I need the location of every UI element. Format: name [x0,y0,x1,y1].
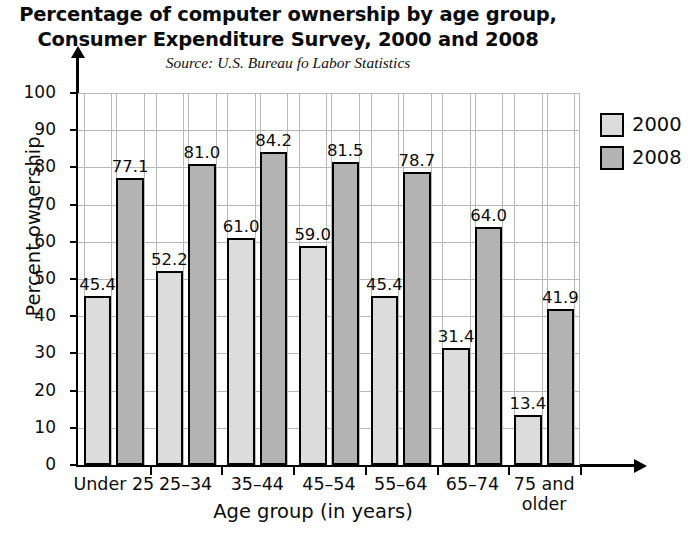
chart-source-note: Source: U.S. Bureau fo Labor Statistics [0,53,576,72]
bar-2000-35–44[interactable] [227,238,255,465]
bar-value-label: 78.7 [391,153,443,170]
gridline-horizontal [78,93,580,94]
x-axis-category-label-line: older [484,494,604,514]
bar-value-label: 84.2 [248,133,300,150]
y-axis-tick-label: 30 [14,344,56,361]
chart-title-block: Percentage of computer ownership by age … [0,2,576,72]
legend-swatch-icon-2000 [600,113,624,137]
y-axis-tick-label: 100 [14,84,56,101]
bar-2008-55–64[interactable] [403,172,431,465]
gridline-vertical [579,93,580,465]
bar-chart: Percentage of computer ownership by age … [0,0,699,545]
gridline-horizontal [78,353,580,354]
y-axis-tick-label: 10 [14,419,56,436]
bar-value-label: 41.9 [535,290,587,307]
bar-value-label: 64.0 [463,208,515,225]
y-axis-tick-label: 20 [14,382,56,399]
y-axis-tick-label: 60 [14,233,56,250]
bar-value-label: 77.1 [104,159,156,176]
bar-2000-under-25[interactable] [84,296,112,465]
bar-2008-75-and-older[interactable] [547,309,575,465]
chart-title-line-2: Consumer Expenditure Survey, 2000 and 20… [0,27,576,52]
bar-value-label: 52.2 [144,252,196,269]
gridline-vertical [470,93,471,465]
bar-2008-35–44[interactable] [260,152,288,465]
bar-2000-55–64[interactable] [371,296,399,465]
x-axis-category-label: 75 andolder [484,474,604,514]
legend-item-2000[interactable]: 2000 [600,108,682,141]
x-axis-arrow-icon [634,459,647,473]
bar-value-label: 81.0 [176,145,228,162]
legend-item-2008[interactable]: 2008 [600,141,682,174]
gridline-horizontal [78,130,580,131]
bar-2008-under-25[interactable] [116,178,144,465]
gridline-vertical [574,93,575,465]
bar-value-label: 45.4 [359,277,411,294]
bar-value-label: 45.4 [72,277,124,294]
gridline-vertical [431,93,432,465]
y-axis-tick-label: 70 [14,196,56,213]
bar-value-label: 61.0 [215,219,267,236]
gridline-horizontal [78,316,580,317]
gridline-vertical [144,93,145,465]
y-axis-tick-label: 0 [14,456,56,473]
bar-2000-65–74[interactable] [442,348,470,465]
bar-2000-45–54[interactable] [299,246,327,465]
y-axis-tick-label: 80 [14,158,56,175]
y-axis-tick-label: 50 [14,270,56,287]
bar-2008-25–34[interactable] [188,164,216,465]
bar-value-label: 13.4 [502,396,554,413]
bar-2008-45–54[interactable] [332,162,360,465]
legend-label-2000: 2000 [632,115,682,135]
y-axis-tick-label: 90 [14,121,56,138]
legend-swatch-icon-2008 [600,146,624,170]
chart-legend: 2000 2008 [600,108,682,174]
x-axis-category-label-line: 75 and [484,474,604,494]
bar-2008-65–74[interactable] [475,227,503,465]
bar-2000-25–34[interactable] [156,271,184,465]
bar-value-label: 31.4 [430,329,482,346]
legend-label-2008: 2008 [632,148,682,168]
bar-value-label: 59.0 [287,227,339,244]
gridline-horizontal [78,391,580,392]
y-axis-arrow-icon [71,46,85,58]
bar-2000-75-and-older[interactable] [514,415,542,465]
gridline-horizontal [78,428,580,429]
bar-value-label: 81.5 [320,143,372,160]
y-axis-tick-label: 40 [14,307,56,324]
chart-title-line-1: Percentage of computer ownership by age … [0,2,576,27]
gridline-horizontal [78,279,580,280]
x-axis-title: Age group (in years) [148,500,478,523]
